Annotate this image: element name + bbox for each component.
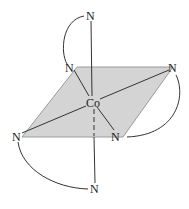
diagram-svg: N N N Co N N N — [0, 0, 189, 209]
octahedral-complex-diagram: N N N Co N N N — [0, 0, 189, 209]
ligand-n-upper-left: N — [65, 61, 74, 75]
bond-bottom — [94, 137, 95, 183]
ligand-n-lower-right: N — [111, 130, 120, 144]
ligand-n-top: N — [86, 9, 95, 23]
ligand-n-lower-left: N — [12, 130, 21, 144]
chelate-arc-top — [63, 16, 84, 64]
ligand-n-upper-right: N — [168, 61, 177, 75]
metal-co: Co — [86, 96, 100, 110]
chelate-arc-bottom — [18, 142, 88, 189]
ligand-n-bottom: N — [90, 182, 99, 196]
